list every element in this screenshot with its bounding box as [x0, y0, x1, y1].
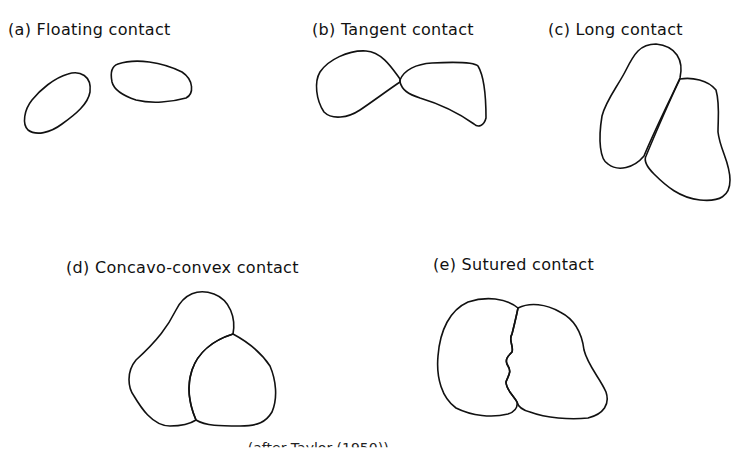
grain-d2 [189, 334, 276, 426]
concavo-convex-contact-grains [129, 292, 276, 426]
grain-b2 [400, 62, 486, 126]
grain-contacts-diagram [0, 0, 748, 450]
grain-d1 [129, 292, 234, 426]
sutured-contact-grains [438, 299, 608, 419]
grain-e1 [438, 299, 518, 416]
grain-c2 [645, 78, 730, 200]
grain-a1 [25, 73, 91, 133]
floating-contact-grains [25, 61, 192, 133]
grain-b1 [317, 51, 400, 117]
long-contact-grains [600, 44, 730, 200]
grain-a2 [111, 61, 191, 102]
tangent-contact-grains [317, 51, 486, 126]
grain-e2 [506, 305, 607, 419]
grain-c1 [600, 44, 681, 168]
